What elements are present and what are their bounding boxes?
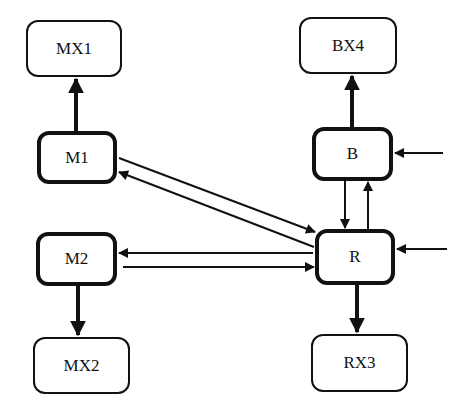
node-label: MX2	[64, 356, 100, 376]
node-label: RX3	[343, 353, 375, 373]
node-label: BX4	[332, 36, 364, 56]
node-b: B	[312, 127, 393, 181]
node-label: M1	[65, 148, 89, 168]
node-label: MX1	[56, 39, 92, 59]
node-label: R	[349, 247, 360, 267]
node-mx1: MX1	[26, 20, 122, 77]
node-m2: M2	[36, 232, 117, 286]
node-label: M2	[65, 249, 89, 269]
diagram-canvas: MX1 M1 M2 MX2 BX4 B R RX3	[0, 0, 470, 412]
edge-r-to-m1	[119, 172, 314, 247]
node-label: B	[347, 144, 358, 164]
node-r: R	[315, 229, 395, 285]
node-rx3: RX3	[311, 334, 408, 392]
edge-m1-to-r	[119, 158, 315, 232]
node-mx2: MX2	[33, 337, 130, 394]
node-m1: M1	[37, 131, 117, 184]
node-bx4: BX4	[299, 17, 397, 74]
